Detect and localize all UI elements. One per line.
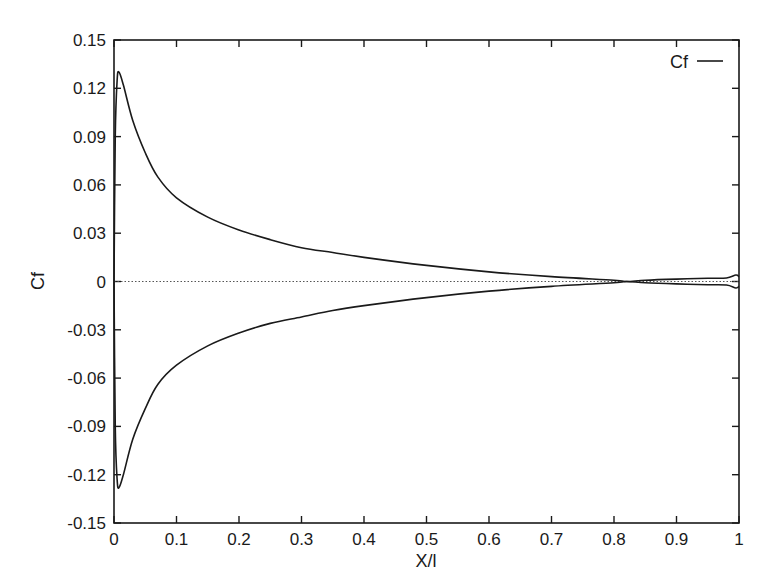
y-tick-label: 0.12 — [73, 79, 106, 98]
x-tick-label: 0.1 — [165, 530, 189, 549]
cf-upper-surface-line — [114, 72, 739, 282]
x-tick-label: 1 — [734, 530, 743, 549]
y-tick-label: -0.15 — [67, 514, 106, 533]
x-tick-label: 0.5 — [415, 530, 439, 549]
y-tick-label: 0.06 — [73, 176, 106, 195]
y-tick-label: 0.15 — [73, 31, 106, 50]
y-tick-label: 0.03 — [73, 224, 106, 243]
x-tick-label: 0.3 — [290, 530, 314, 549]
x-tick-label: 0.4 — [352, 530, 376, 549]
x-axis-label: X/l — [415, 551, 436, 571]
x-tick-label: 0.7 — [540, 530, 564, 549]
x-tick-label: 0.6 — [477, 530, 501, 549]
x-tick-label: 0 — [109, 530, 118, 549]
legend: Cf — [670, 52, 723, 72]
y-axis-tick-labels: 0.150.120.090.060.030-0.03-0.06-0.09-0.1… — [67, 31, 106, 533]
x-tick-label: 0.2 — [227, 530, 251, 549]
y-tick-label: 0 — [97, 273, 106, 292]
x-axis-tick-labels: 00.10.20.30.40.50.60.70.80.91 — [109, 530, 743, 549]
legend-label: Cf — [670, 52, 689, 72]
cf-lower-surface-line — [114, 282, 739, 489]
y-axis-label: Cf — [28, 271, 48, 290]
y-tick-label: -0.12 — [67, 466, 106, 485]
x-tick-label: 0.8 — [602, 530, 626, 549]
cf-line-chart: 00.10.20.30.40.50.60.70.80.91 0.150.120.… — [0, 0, 769, 588]
y-tick-label: 0.09 — [73, 128, 106, 147]
y-tick-label: -0.03 — [67, 321, 106, 340]
y-tick-label: -0.09 — [67, 417, 106, 436]
x-tick-label: 0.9 — [665, 530, 689, 549]
y-tick-label: -0.06 — [67, 369, 106, 388]
